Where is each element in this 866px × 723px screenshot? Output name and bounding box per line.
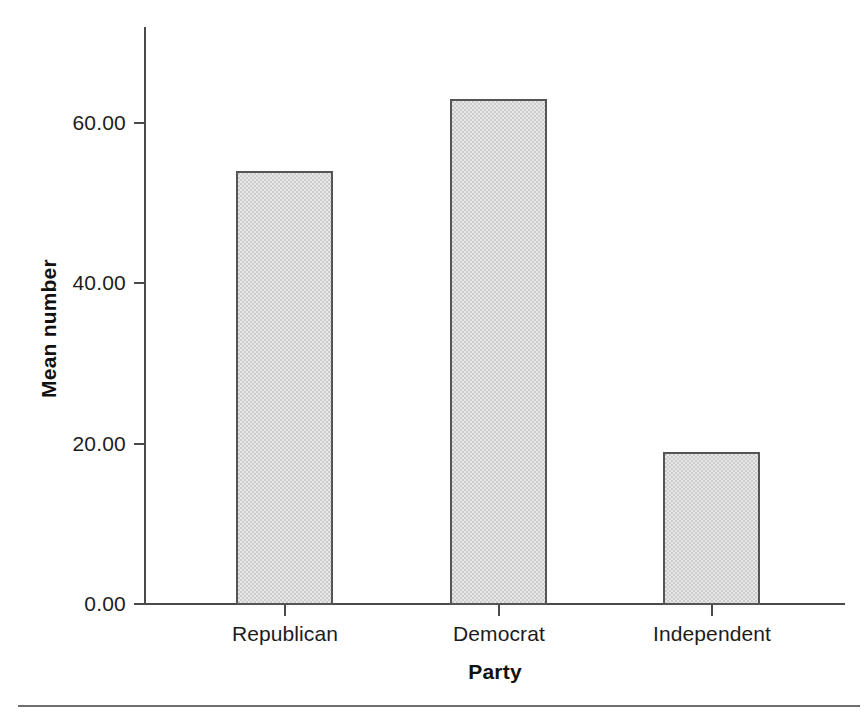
x-axis-tick-label-democrat: Democrat xyxy=(379,622,619,646)
x-axis-tick-republican xyxy=(284,605,286,616)
y-axis-tick-label-60: 60.00 xyxy=(0,112,126,133)
x-axis-tick-label-republican: Republican xyxy=(165,622,405,646)
x-axis-title: Party xyxy=(145,661,845,682)
y-axis-tick-0 xyxy=(134,603,145,605)
y-axis-tick-label-60-wrap: 60.00 xyxy=(0,112,126,133)
bar-republican[interactable] xyxy=(236,171,333,605)
y-axis-tick-40 xyxy=(134,282,145,284)
x-axis-tick-democrat xyxy=(498,605,500,616)
y-axis-tick-label-0: 0.00 xyxy=(0,593,126,614)
y-axis-tick-60 xyxy=(134,122,145,124)
y-axis-tick-label-40: 40.00 xyxy=(0,272,126,293)
bottom-divider xyxy=(18,705,860,707)
x-axis-tick-independent xyxy=(711,605,713,616)
y-axis-tick-20 xyxy=(134,443,145,445)
y-axis-title: Mean number xyxy=(38,219,59,439)
bar-chart-figure: 60.00 40.00 20.00 0.00 Republican Democr… xyxy=(0,0,866,723)
y-axis-tick-label-20: 20.00 xyxy=(0,433,126,454)
y-axis-tick-label-20-wrap: 20.00 xyxy=(0,433,126,454)
bar-independent[interactable] xyxy=(663,452,760,605)
x-axis-tick-label-independent: Independent xyxy=(592,622,832,646)
y-axis-line xyxy=(144,27,146,605)
bar-democrat[interactable] xyxy=(450,99,547,605)
y-axis-tick-label-0-wrap: 0.00 xyxy=(0,593,126,614)
y-axis-tick-label-40-wrap: 40.00 xyxy=(0,272,126,293)
